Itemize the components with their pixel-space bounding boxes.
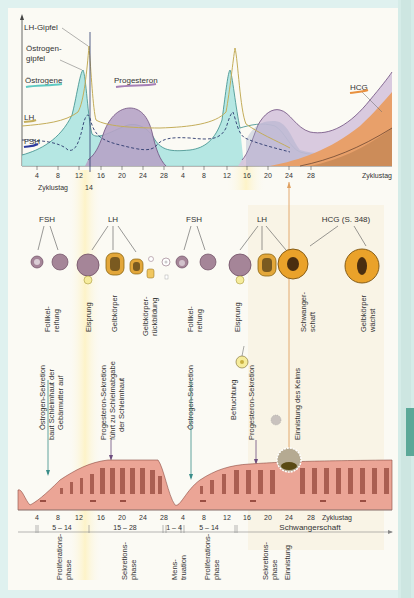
svg-text:5 – 14: 5 – 14 — [52, 524, 72, 531]
estrogen-secretion-label-2: Östrogen-Sekretion — [186, 365, 195, 430]
svg-text:8: 8 — [202, 172, 206, 179]
estrogen-peak-label: Östrogen- — [26, 44, 62, 53]
svg-text:reifung: reifung — [195, 309, 204, 332]
svg-text:phase: phase — [270, 560, 279, 580]
svg-text:24: 24 — [139, 514, 147, 521]
svg-text:phase: phase — [64, 560, 73, 580]
svg-text:20: 20 — [118, 514, 126, 521]
svg-text:12: 12 — [223, 514, 231, 521]
svg-text:Gelbkörper-: Gelbkörper- — [141, 296, 150, 336]
diagram-page: LH-Gipfel Östrogen- gipfel Östrogene Pro… — [8, 8, 398, 590]
svg-text:16: 16 — [97, 514, 105, 521]
svg-text:Follikel-: Follikel- — [186, 306, 195, 332]
svg-text:Eisprung: Eisprung — [84, 302, 93, 332]
svg-text:phase: phase — [212, 560, 221, 580]
progesterone-secretion-label: Progesteron-Sekretion — [99, 365, 108, 440]
svg-text:28: 28 — [307, 172, 315, 179]
svg-text:4: 4 — [35, 514, 39, 521]
svg-text:4: 4 — [35, 172, 39, 179]
svg-text:28: 28 — [307, 514, 315, 521]
svg-text:24: 24 — [285, 514, 293, 521]
svg-text:20: 20 — [264, 514, 272, 521]
svg-text:4: 4 — [181, 172, 185, 179]
svg-text:phase: phase — [129, 560, 138, 580]
svg-text:15 – 28: 15 – 28 — [113, 524, 136, 531]
svg-text:24: 24 — [285, 172, 293, 179]
fertilization-label: Befruchtung — [229, 380, 238, 420]
svg-text:16: 16 — [243, 172, 251, 179]
implantation-label: Einnistung des Keims — [293, 368, 302, 440]
svg-text:Sekretions-: Sekretions- — [261, 542, 270, 580]
chapter-tab — [406, 408, 414, 456]
menstrual-cycle-diagram: LH-Gipfel Östrogen- gipfel Östrogene Pro… — [8, 8, 398, 590]
page-margin-strip — [398, 0, 414, 598]
svg-text:gipfel: gipfel — [26, 54, 45, 63]
svg-text:Gebärmutter auf: Gebärmutter auf — [56, 374, 65, 430]
svg-text:Gelbkörper: Gelbkörper — [359, 294, 368, 332]
estrogen-secretion-label: Östrogen-Sekretion — [38, 365, 47, 430]
svg-text:8: 8 — [56, 172, 60, 179]
svg-text:der Schleimhaut: der Schleimhaut — [117, 377, 126, 432]
svg-text:rückbildung: rückbildung — [150, 298, 159, 336]
lh-label-2: LH — [257, 215, 267, 224]
svg-text:Schwanger-: Schwanger- — [299, 291, 308, 332]
svg-text:12: 12 — [223, 172, 231, 179]
svg-text:12: 12 — [75, 514, 83, 521]
svg-text:16: 16 — [97, 172, 105, 179]
svg-text:schaft: schaft — [308, 311, 317, 332]
lh-peak-label: LH-Gipfel — [24, 23, 58, 32]
svg-text:24: 24 — [139, 172, 147, 179]
svg-text:Einnistung: Einnistung — [283, 545, 292, 580]
lh-label-1: LH — [108, 215, 118, 224]
svg-text:Proliferations-: Proliferations- — [55, 533, 64, 580]
pregnancy-label: Schwangerschaft — [279, 523, 341, 532]
svg-text:Follikel-: Follikel- — [43, 306, 52, 332]
morula-icon — [271, 415, 281, 425]
hormone-chart: LH-Gipfel Östrogen- gipfel Östrogene Pro… — [20, 14, 392, 192]
fsh-label-1: FSH — [39, 215, 55, 224]
svg-text:20: 20 — [118, 172, 126, 179]
svg-text:1 – 4: 1 – 4 — [166, 524, 182, 531]
svg-text:Zyklustag: Zyklustag — [322, 514, 352, 522]
svg-text:reifung: reifung — [52, 309, 61, 332]
svg-text:Proliferations-: Proliferations- — [203, 533, 212, 580]
svg-text:Sekretions-: Sekretions- — [120, 542, 129, 580]
svg-text:führt zu Schleimabgabe: führt zu Schleimabgabe — [108, 361, 117, 440]
cycle-day-label: Zyklustag — [38, 184, 68, 192]
svg-text:wächst: wächst — [368, 308, 377, 333]
svg-text:5 – 14: 5 – 14 — [199, 524, 219, 531]
svg-text:20: 20 — [264, 172, 272, 179]
svg-text:Eisprung: Eisprung — [233, 302, 242, 332]
svg-text:4: 4 — [181, 514, 185, 521]
svg-text:Gelbkörper: Gelbkörper — [110, 294, 119, 332]
svg-text:28: 28 — [160, 514, 168, 521]
day-14-label: 14 — [85, 184, 93, 191]
svg-text:8: 8 — [56, 514, 60, 521]
svg-text:truation: truation — [179, 555, 188, 580]
svg-text:12: 12 — [75, 172, 83, 179]
svg-text:Zyklustag: Zyklustag — [362, 172, 392, 180]
progesterone-secretion-label-2: Progesteron-Sekretion — [247, 365, 256, 440]
svg-text:16: 16 — [243, 514, 251, 521]
svg-text:Mens-: Mens- — [170, 559, 179, 580]
svg-text:8: 8 — [202, 514, 206, 521]
svg-text:28: 28 — [160, 172, 168, 179]
hcg-ref-label: HCG (S. 348) — [322, 215, 371, 224]
hormone-x-axis: 4 8 12 16 20 24 28 4 8 12 16 20 24 28 — [35, 166, 315, 179]
fsh-label-2: FSH — [186, 215, 202, 224]
